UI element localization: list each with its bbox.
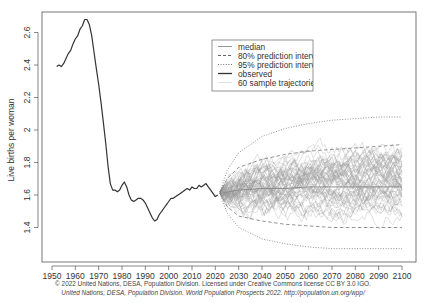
observed-line <box>57 20 218 222</box>
sample-trajectories <box>220 138 402 228</box>
y-tick-label: 1.8 <box>22 156 32 168</box>
fertility-projection-chart: 1950196019701980199020002010202020302040… <box>0 0 426 303</box>
y-tick-label: 2.4 <box>22 59 32 71</box>
y-tick-label: 1.6 <box>22 189 32 201</box>
y-axis-title: Live births per woman <box>6 98 16 181</box>
x-axis: 1950196019701980199020002010202020302040… <box>43 266 412 281</box>
observed-series <box>57 20 218 222</box>
legend: median 80% prediction interva 95% predic… <box>212 40 320 91</box>
y-tick-label: 2 <box>22 127 32 132</box>
y-axis: 1.41.61.822.22.42.6 <box>22 26 38 233</box>
copyright-notice: © 2022 United Nations, DESA, Population … <box>0 280 426 287</box>
legend-item-trajectories: 60 sample trajectories <box>238 78 319 88</box>
y-tick-label: 2.2 <box>22 91 32 103</box>
citation: United Nations, DESA, Population Divisio… <box>0 289 426 296</box>
y-tick-label: 2.6 <box>22 26 32 38</box>
y-tick-label: 1.4 <box>22 221 32 233</box>
